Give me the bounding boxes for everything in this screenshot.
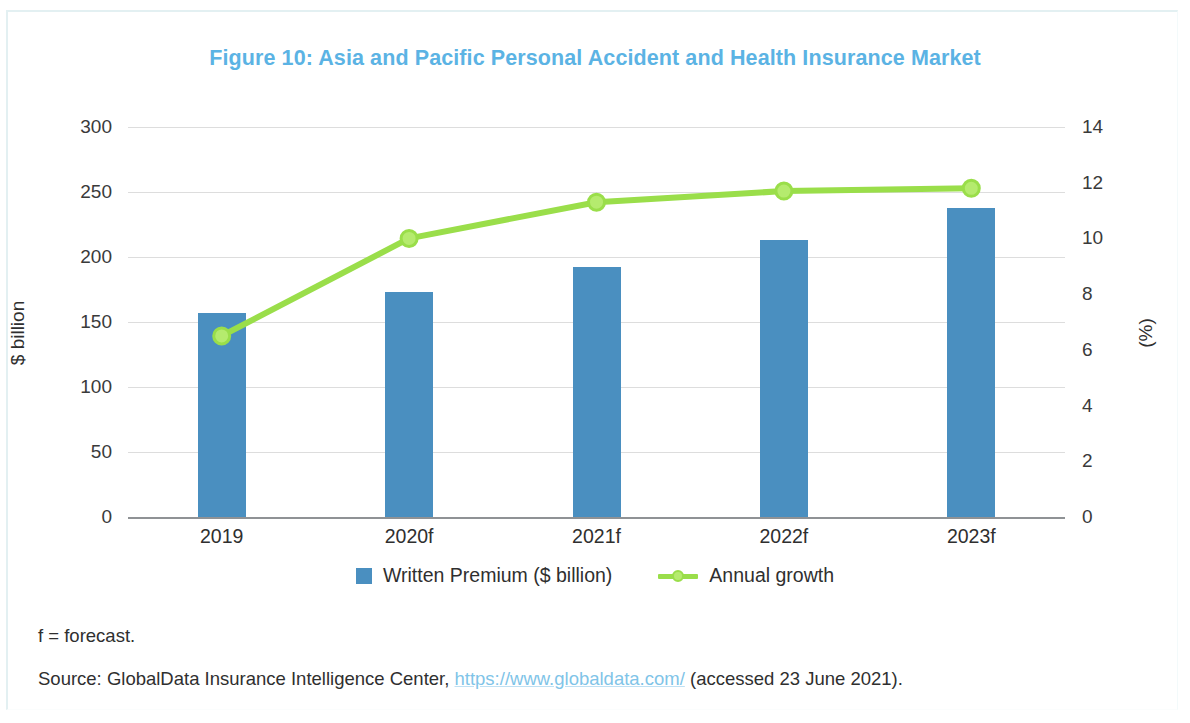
x-axis-tick-label: 2023f <box>947 525 996 548</box>
x-axis-tick-label: 2019 <box>200 525 243 548</box>
y-axis-tick-label: 300 <box>80 116 112 138</box>
y-axis-tick-label-secondary: 6 <box>1082 339 1093 361</box>
x-axis-tick-label: 2020f <box>385 525 434 548</box>
plot-area: 2019: 6.5%2020f: 10%2021f: 11.3%2022f: 1… <box>128 127 1065 517</box>
y-axis-tick-label-secondary: 14 <box>1082 116 1103 138</box>
legend-item-annual-growth[interactable]: Annual growth <box>658 564 834 587</box>
line-series: 2019: 6.5%2020f: 10%2021f: 11.3%2022f: 1… <box>128 127 1065 517</box>
x-axis-tick-label: 2022f <box>759 525 808 548</box>
y-axis-tick-label: 50 <box>91 441 112 463</box>
y-axis-tick-label: 250 <box>80 181 112 203</box>
legend-item-written-premium[interactable]: Written Premium ($ billion) <box>356 564 612 587</box>
line-marker[interactable]: 2021f: 11.3% <box>589 194 605 210</box>
y-axis-tick-label: 200 <box>80 246 112 268</box>
y-axis-label-secondary: (%) <box>1135 318 1157 348</box>
line-marker[interactable]: 2023f: 11.8% <box>963 180 979 196</box>
footnote-forecast: f = forecast. <box>38 625 135 647</box>
line-marker[interactable]: 2020f: 10% <box>401 230 417 246</box>
line-marker[interactable]: 2019: 6.5% <box>214 328 230 344</box>
footnote-source: Source: GlobalData Insurance Intelligenc… <box>38 668 903 690</box>
figure-container: Figure 10: Asia and Pacific Personal Acc… <box>0 0 1190 723</box>
legend-swatch-icon <box>356 568 372 584</box>
y-axis-tick-label-secondary: 10 <box>1082 227 1103 249</box>
y-axis-tick-label: 100 <box>80 376 112 398</box>
gridline <box>128 517 1065 519</box>
source-link[interactable]: https://www.globaldata.com/ <box>455 668 685 689</box>
line-marker[interactable]: 2022f: 11.7% <box>776 183 792 199</box>
y-axis-tick-label: 150 <box>80 311 112 333</box>
y-axis-label-primary: $ billion <box>7 301 29 365</box>
y-axis-tick-label-secondary: 2 <box>1082 450 1093 472</box>
legend-line-marker-icon <box>658 568 698 584</box>
y-axis-tick-label-secondary: 12 <box>1082 172 1103 194</box>
legend-label: Annual growth <box>709 564 834 587</box>
y-axis-tick-label: 0 <box>101 506 112 528</box>
legend-label: Written Premium ($ billion) <box>383 564 612 587</box>
chart-legend: Written Premium ($ billion) Annual growt… <box>0 564 1190 587</box>
page-title: Figure 10: Asia and Pacific Personal Acc… <box>0 46 1190 71</box>
x-axis-tick-label: 2021f <box>572 525 621 548</box>
y-axis-tick-label-secondary: 8 <box>1082 283 1093 305</box>
source-suffix-text: (accessed 23 June 2021). <box>685 668 903 689</box>
y-axis-tick-label-secondary: 0 <box>1082 506 1093 528</box>
source-prefix-text: Source: GlobalData Insurance Intelligenc… <box>38 668 455 689</box>
y-axis-tick-label-secondary: 4 <box>1082 395 1093 417</box>
